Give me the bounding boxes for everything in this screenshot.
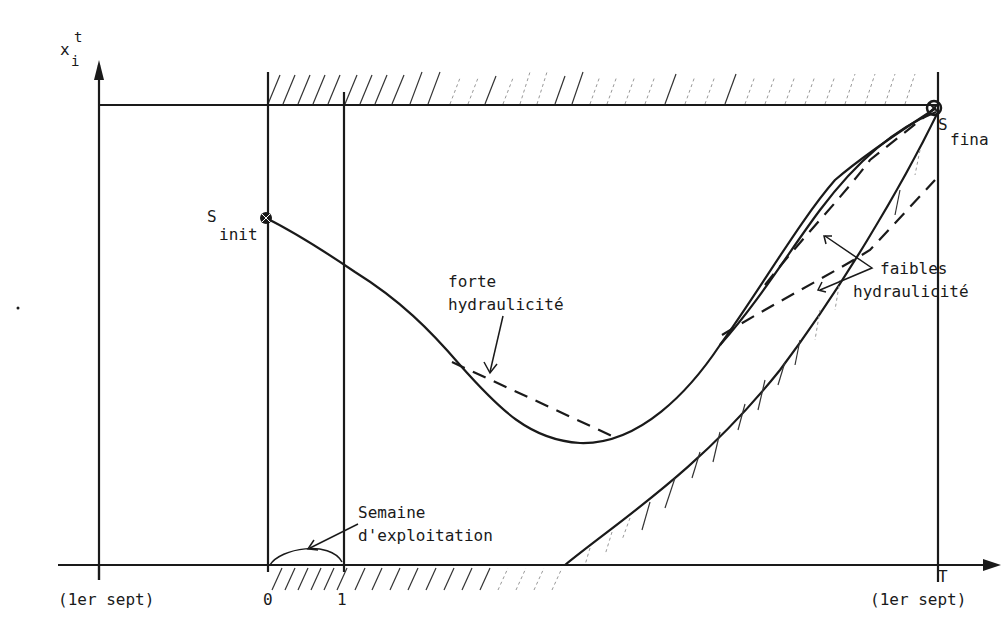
y-axis-label: x <box>60 40 70 59</box>
s-init-sub-label: init <box>219 225 258 244</box>
semaine-annotation-arrow <box>310 524 358 548</box>
x-tick-end-label: (1er sept) <box>870 590 966 609</box>
faibles-branch-upper <box>720 112 936 345</box>
x-tick-1-label: 1 <box>337 590 347 609</box>
forte-hydraulicite-dashed-path <box>452 362 612 436</box>
faibles-label-line1: faibles <box>880 259 947 278</box>
y-axis-arrow-icon <box>94 60 104 80</box>
faibles-label-line2: hydraulicité <box>853 282 969 301</box>
x-tick-0-label: 0 <box>263 590 273 609</box>
semaine-label-line2: d'exploitation <box>358 526 493 545</box>
semaine-label-line1: Semaine <box>358 503 425 522</box>
y-axis-label-sub: i <box>71 53 79 69</box>
reservoir-trajectory-diagram: x t i S init S fina forte hydraulicité f… <box>0 0 1001 644</box>
x-tick-start-label: (1er sept) <box>58 590 154 609</box>
forte-label-line2: hydraulicité <box>448 295 564 314</box>
forte-annotation-arrow <box>490 316 503 372</box>
s-final-label: S <box>938 115 948 134</box>
semaine-arc <box>270 549 342 565</box>
main-trajectory-curve <box>266 108 936 443</box>
minimum-storage-curve <box>565 112 938 565</box>
upper-bound-hatching <box>268 72 915 104</box>
forte-label-line1: forte <box>448 272 496 291</box>
lower-bound-hatching <box>272 568 562 590</box>
y-axis-label-sup: t <box>74 29 82 45</box>
faibles-dashed-path-2 <box>722 180 935 335</box>
x-tick-T-label: T <box>938 567 948 586</box>
s-init-label: S <box>207 207 217 226</box>
s-final-sub-label: fina <box>950 130 989 149</box>
x-axis-arrow-icon <box>983 559 1001 571</box>
minimum-curve-hatching <box>585 150 920 565</box>
